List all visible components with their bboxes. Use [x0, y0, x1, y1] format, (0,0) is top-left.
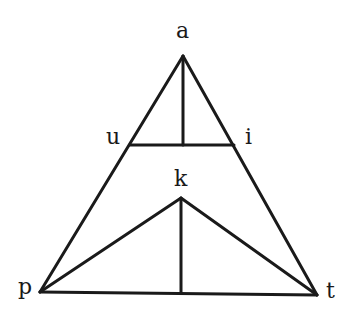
edge-k-t: [181, 198, 317, 295]
edge-a-t: [183, 56, 317, 295]
edge-p-k: [40, 198, 181, 292]
label-i: i: [245, 126, 252, 148]
label-p: p: [18, 276, 32, 298]
label-k: k: [174, 168, 187, 190]
edge-p-t: [40, 292, 317, 295]
label-a: a: [176, 20, 189, 42]
label-t: t: [326, 280, 335, 302]
triangle-diagram: [0, 0, 354, 326]
edge-a-p: [40, 56, 183, 292]
label-u: u: [106, 126, 120, 148]
